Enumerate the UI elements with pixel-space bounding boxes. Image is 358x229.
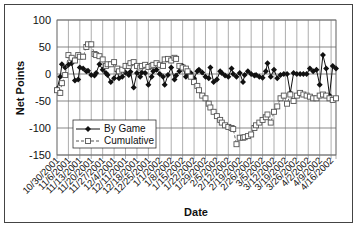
y-axis-ticks: 100500-50-100-150 <box>29 14 51 161</box>
y-tick-label: 100 <box>33 14 51 26</box>
cumulative-point <box>272 109 277 114</box>
by-game-point <box>162 82 168 88</box>
by-game-point <box>317 82 323 88</box>
cumulative-point <box>265 112 270 117</box>
cumulative-point <box>112 60 117 65</box>
cumulative-point <box>288 92 293 97</box>
by-game-point <box>240 79 246 85</box>
cumulative-point <box>100 57 105 62</box>
cumulative-point <box>72 58 77 63</box>
by-game-point <box>149 74 155 80</box>
cumulative-point <box>334 96 339 101</box>
by-game-point <box>165 72 171 78</box>
by-game-point <box>131 85 137 91</box>
cumulative-point <box>281 93 286 98</box>
by-game-point <box>271 67 277 73</box>
by-game-point <box>168 65 174 71</box>
y-tick-label: -50 <box>35 95 51 107</box>
by-game-point <box>268 74 274 80</box>
by-game-point <box>145 82 151 88</box>
x-axis-title: Date <box>184 206 208 218</box>
cumulative-point <box>58 90 63 95</box>
y-tick-label: 0 <box>45 68 51 80</box>
by-game-point <box>263 68 269 74</box>
legend-cumulative-marker <box>86 139 91 144</box>
cumulative-point <box>275 104 280 109</box>
cumulative-point <box>231 127 236 132</box>
y-tick-label: 50 <box>39 41 51 53</box>
cumulative-point <box>188 74 193 79</box>
by-game-point <box>207 65 213 71</box>
by-game-point <box>320 52 326 58</box>
cumulative-point <box>196 88 201 93</box>
cumulative-point <box>234 142 239 147</box>
by-game-point <box>323 66 329 72</box>
by-game-point <box>304 71 310 77</box>
cumulative-point <box>63 73 68 78</box>
cumulative-point <box>174 56 179 61</box>
cumulative-point <box>285 101 290 106</box>
chart: 100500-50-100-150 10/30/200111/6/200111/… <box>0 0 358 229</box>
cumulative-point <box>249 132 254 137</box>
legend-cumulative-label: Cumulative <box>104 135 154 146</box>
cumulative-point <box>268 120 273 125</box>
cumulative-point <box>89 42 94 47</box>
cumulative-point <box>203 96 208 101</box>
legend-by-game-label: By Game <box>104 123 146 134</box>
cumulative-point <box>161 63 166 68</box>
cumulative-point <box>291 99 296 104</box>
legend: By Game Cumulative <box>73 120 156 148</box>
y-axis-title: Net Points <box>14 61 26 115</box>
by-game-point <box>264 60 270 66</box>
cumulative-point <box>185 69 190 74</box>
x-axis-ticks: 10/30/200111/6/200111/13/200111/20/20011… <box>20 155 336 196</box>
cumulative-point <box>81 54 86 59</box>
y-tick-label: -100 <box>29 122 51 134</box>
cumulative-point <box>59 81 64 86</box>
by-game-point <box>229 66 235 72</box>
by-game-point <box>284 71 290 77</box>
